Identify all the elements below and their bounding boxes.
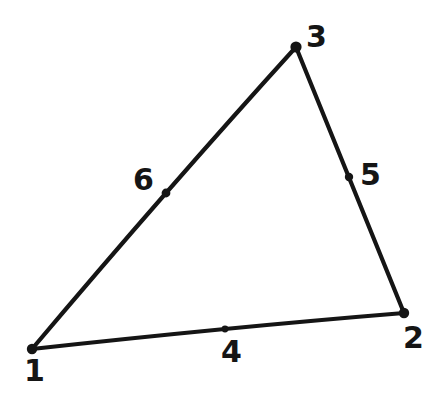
edge-1-3 bbox=[32, 47, 296, 349]
node-label-4: 4 bbox=[221, 337, 242, 367]
node-dot-5 bbox=[345, 173, 353, 181]
nodes-group bbox=[27, 41, 409, 354]
triangle-drawing bbox=[0, 0, 440, 397]
node-dot-2 bbox=[399, 308, 409, 318]
edge-1-2 bbox=[32, 313, 404, 349]
geometry-figure: 123456 bbox=[0, 0, 440, 397]
node-label-2: 2 bbox=[403, 323, 424, 353]
node-label-5: 5 bbox=[360, 160, 381, 190]
edges-group bbox=[32, 47, 404, 349]
node-dot-6 bbox=[162, 189, 171, 198]
node-label-6: 6 bbox=[133, 165, 154, 195]
node-dot-3 bbox=[290, 41, 301, 52]
node-label-1: 1 bbox=[24, 356, 45, 386]
node-label-3: 3 bbox=[306, 22, 327, 52]
node-dot-4 bbox=[222, 326, 229, 333]
